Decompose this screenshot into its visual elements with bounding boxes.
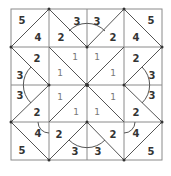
label: 3 [149,70,156,81]
label: 1 [94,52,100,62]
diag [49,9,87,47]
label: 1 [110,92,116,102]
diag [124,85,162,122]
label: 2 [34,107,41,118]
vertex-dot [48,159,51,162]
label: 5 [148,146,155,157]
label: 2 [34,53,41,64]
diag [11,9,49,47]
label: 5 [19,145,26,156]
diag [11,122,49,160]
label: 2 [110,129,117,140]
vertex-dot [10,46,13,49]
label: 1 [72,52,78,62]
vertex-dot [48,84,51,87]
diag [124,9,162,47]
vertex-dot [48,8,51,11]
diag [124,47,162,85]
vertex-dot [86,121,89,124]
label: 1 [57,68,63,78]
vertex-dot [86,46,89,49]
label: 2 [110,32,117,43]
label: 4 [35,128,42,139]
label: 2 [58,32,65,43]
diag [124,122,162,160]
label: 3 [94,16,101,27]
label: 5 [19,15,26,26]
label: 1 [110,68,116,78]
label: 4 [133,128,140,139]
label: 2 [133,53,140,64]
vertex-dot [10,121,13,124]
label: 3 [74,16,81,27]
label: 3 [72,146,79,157]
label: 2 [56,129,63,140]
label: 5 [148,15,155,26]
label: 3 [17,90,24,101]
label: 1 [57,92,63,102]
label: 3 [17,70,24,81]
label: 4 [35,32,42,43]
label: 3 [149,90,156,101]
label: 1 [94,107,100,117]
vertex-dot [123,159,126,162]
label: 2 [133,107,140,118]
vertex-dot [161,121,164,124]
vertex-dot [123,8,126,11]
vertex-dot [123,84,126,87]
diag [87,122,124,160]
vertex-dot [161,46,164,49]
label: 4 [133,32,140,43]
label: 3 [95,146,102,157]
label: 1 [73,107,79,117]
vertex-dot [85,83,89,87]
quilt-diagram: 5 4 2 3 3 2 4 5 2 3 3 2 2 3 3 2 1 1 1 1 … [0,0,171,176]
